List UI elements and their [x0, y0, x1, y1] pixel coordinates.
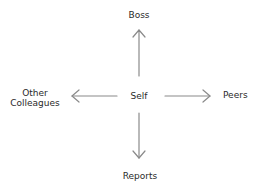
node-self: Self — [131, 91, 148, 101]
arrow-up-icon — [133, 30, 145, 76]
node-reports: Reports — [123, 171, 158, 181]
influence-diagram: Boss Self Peers Reports Other Colleagues — [0, 0, 259, 193]
node-peers: Peers — [223, 90, 248, 100]
node-boss: Boss — [128, 10, 149, 20]
node-other-colleagues-line1: Other — [10, 88, 60, 98]
node-other-colleagues-line2: Colleagues — [10, 98, 60, 108]
arrow-left-icon — [72, 90, 117, 102]
arrow-down-icon — [133, 113, 145, 158]
arrow-right-icon — [165, 90, 210, 102]
node-other-colleagues: Other Colleagues — [10, 88, 60, 108]
